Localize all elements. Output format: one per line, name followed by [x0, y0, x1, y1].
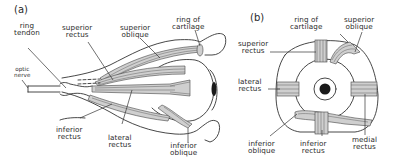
label-b-medial-rectus: medial rectus: [352, 136, 377, 151]
label-a-inferior-oblique: inferior oblique: [170, 142, 197, 157]
panel-a-tag: (a): [14, 4, 28, 15]
panel-b-tag: (b): [250, 12, 264, 23]
label-a-optic-nerve: optic nerve: [14, 66, 31, 78]
label-a-ring-of-cartilage: ring of cartilage: [172, 16, 204, 31]
label-a-ring-tendon: ring tendon: [14, 22, 40, 37]
label-b-lateral-rectus: lateral rectus: [238, 78, 262, 93]
label-b-superior-rectus: superior rectus: [238, 40, 268, 55]
label-b-inferior-rectus: inferior rectus: [300, 140, 327, 155]
label-a-inferior-rectus: inferior rectus: [56, 126, 83, 141]
label-b-superior-oblique: superior oblique: [344, 16, 374, 31]
panel-a-drawing: [22, 30, 226, 143]
panel-b-drawing: [268, 32, 378, 136]
label-b-ring-of-cartilage: ring of cartilage: [290, 16, 322, 31]
label-a-superior-oblique: superior oblique: [120, 24, 150, 39]
label-b-inferior-oblique: inferior oblique: [248, 140, 275, 155]
label-a-lateral-rectus: lateral rectus: [108, 134, 132, 149]
label-a-superior-rectus: superior rectus: [62, 24, 92, 39]
